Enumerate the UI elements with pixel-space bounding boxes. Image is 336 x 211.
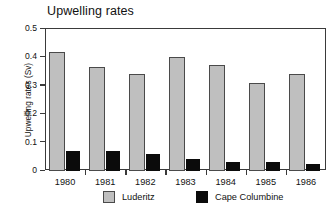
bar-luderitz-1984 [209, 65, 225, 171]
bar-cape-columbine-1980 [66, 151, 80, 171]
bar-luderitz-1986 [289, 74, 305, 171]
legend-label-luderitz: Luderitz [122, 192, 155, 203]
bar-cape-columbine-1983 [186, 159, 200, 171]
bar-cape-columbine-1985 [266, 162, 280, 171]
bar-cape-columbine-1982 [146, 154, 160, 171]
y-axis-tick-label: 0.1 [25, 137, 37, 147]
x-axis-label-1982: 1982 [122, 177, 168, 188]
x-axis-label-1980: 1980 [42, 177, 88, 188]
x-axis-label-1985: 1985 [243, 177, 289, 188]
y-axis-tick: 0.1 [0, 137, 45, 147]
y-axis-tick-label: 0.5 [25, 23, 37, 33]
x-axis-tick-mark [85, 170, 86, 175]
bar-cape-columbine-1986 [306, 164, 320, 171]
legend-swatch-cape-columbine [196, 191, 208, 203]
y-axis-tick-label: 0 [32, 165, 37, 175]
plot-area [45, 28, 326, 170]
legend-entry-cape-columbine: Cape Columbine [196, 190, 283, 204]
x-axis-label-1983: 1983 [163, 177, 209, 188]
x-axis-tick-mark [286, 170, 287, 175]
x-axis-label-1981: 1981 [82, 177, 128, 188]
y-axis-tick-label: 0.2 [25, 108, 37, 118]
chart-title: Upwelling rates [47, 4, 134, 19]
y-axis-tick: 0.4 [0, 51, 45, 61]
bar-luderitz-1981 [89, 67, 105, 171]
x-axis-tick-mark [125, 170, 126, 175]
bar-cape-columbine-1984 [226, 162, 240, 171]
y-axis-label: Upwelling rates (Sv) [23, 25, 33, 175]
x-axis-label-1984: 1984 [203, 177, 249, 188]
chart-legend: Luderitz Cape Columbine [0, 190, 336, 208]
x-axis-tick-mark [206, 170, 207, 175]
legend-swatch-luderitz [103, 191, 115, 203]
x-axis-label-1986: 1986 [283, 177, 329, 188]
x-axis-tick-mark [165, 170, 166, 175]
x-axis-tick-mark [246, 170, 247, 175]
bar-luderitz-1983 [169, 57, 185, 171]
y-axis-tick-label: 0.4 [25, 51, 37, 61]
bar-cape-columbine-1981 [106, 151, 120, 171]
y-axis-tick: 0.2 [0, 108, 45, 118]
legend-label-cape-columbine: Cape Columbine [215, 192, 283, 203]
y-axis-tick: 0.5 [0, 23, 45, 33]
upwelling-rates-bar-chart: Upwelling rates Upwelling rates (Sv) 00.… [0, 0, 336, 211]
bar-luderitz-1985 [249, 83, 265, 171]
y-axis-tick: 0.3 [0, 80, 45, 90]
bar-luderitz-1980 [49, 52, 65, 171]
legend-entry-luderitz: Luderitz [103, 190, 155, 204]
bar-luderitz-1982 [129, 74, 145, 171]
y-axis-tick: 0 [0, 165, 45, 175]
y-axis-tick-label: 0.3 [25, 80, 37, 90]
